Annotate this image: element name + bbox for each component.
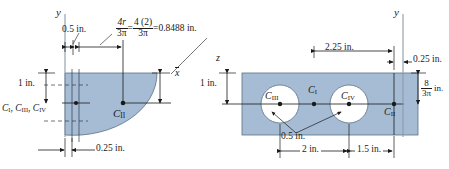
right-cI-letter: C [308,84,315,95]
left-xbar-glyph: x [175,68,179,78]
left-dim-label-1in: 1 in. [18,79,35,89]
right-cIV-dot [347,102,351,106]
left-formula-term2-den: 3π [133,29,153,39]
right-dim-label-1in: 1 in. [200,79,217,89]
left-formula-term1-den: 3π [116,29,128,39]
right-cIII-label: CIII [265,91,278,102]
right-cII-label: CII [384,107,395,118]
right-dim-label-15in: 1.5 in. [355,145,383,155]
left-leader-formula [100,34,112,45]
left-cIII-sub: III [22,106,28,113]
right-dim-label-radius: 0.5 in. [281,132,305,142]
left-formula-result: 0.8488 in. [158,23,196,33]
figure-canvas: y 0.5 in. 4r 3π = 4 (2) 3π =0.8488 in. 1… [0,0,449,169]
right-cI-label: CI [308,85,317,96]
left-cII-sub: II [120,111,125,120]
right-dim-label-2in: 2 in. [300,145,321,155]
right-dim-label-8over3pi: 8 3π in. [421,79,443,99]
right-cIV-letter: C [341,90,348,101]
right-dim-label-025in: 0.25 in. [413,55,442,65]
right-cIV-label: CIV [341,91,355,102]
right-frac-unit: in. [432,83,443,93]
left-centroid-group-label: CI, CIII, CIV [2,104,46,114]
left-cII-label: CII [113,108,125,120]
left-formula: 4r 3π = 4 (2) 3π =0.8488 in. [116,18,197,39]
right-cII-sub: II [391,110,396,117]
left-dim-label-025in: 0.25 in. [96,144,125,154]
left-y-axis-label: y [56,7,61,18]
right-z-axis-label: z [216,53,220,63]
left-cIV-sub: IV [39,106,46,113]
left-cI-sub: I [8,106,10,113]
right-cII-letter: C [384,106,391,117]
left-formula-term2: 4 (2) 3π [133,18,153,39]
right-cI-dot [312,102,316,106]
left-formula-term1: 4r 3π [116,18,128,39]
left-leader-05-slant [73,33,79,44]
right-frac-den: 3π [421,89,432,98]
right-cIV-sub: IV [348,94,355,101]
right-y-axis-label: y [394,7,399,18]
left-xbar-label: x [175,68,179,78]
left-cII-centroid-dot [121,101,126,106]
left-cI-centroid-dot [74,101,78,105]
right-cIII-dot [278,102,282,106]
right-cIII-sub: III [272,94,279,101]
right-dim-label-225in: 2.25 in. [325,43,354,53]
right-frac-8over3pi: 8 3π [421,79,432,99]
right-cIII-letter: C [265,90,272,101]
right-cI-sub: I [315,88,317,95]
left-dim-label-0-5in: 0.5 in. [62,25,86,35]
